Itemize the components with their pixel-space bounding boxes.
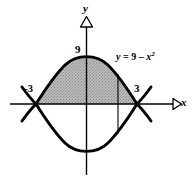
- x-intercept-left-label: –3: [22, 83, 33, 94]
- x-intercept-right-label: 3: [134, 83, 140, 94]
- equation-exponent: 2: [151, 50, 155, 58]
- y-axis-label: y: [83, 3, 88, 14]
- triangle-up-outline-icon: [81, 17, 93, 28]
- curve-equation-label: y = 9 – x2: [116, 52, 155, 62]
- equation-operator: = 9 –: [120, 51, 146, 62]
- x-axis-label: x: [181, 97, 187, 108]
- vertex-value-label: 9: [75, 44, 81, 55]
- math-figure-parabola: y x 9 –3 3 y = 9 – x2: [0, 0, 194, 180]
